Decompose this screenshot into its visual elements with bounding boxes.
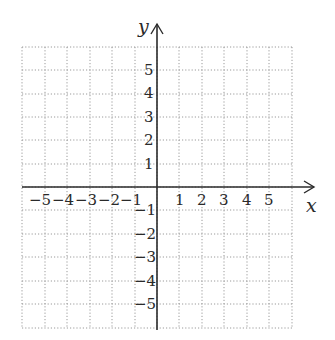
x-tick-5: 5: [264, 193, 274, 208]
y-tick-1: 1: [144, 157, 154, 172]
y-tick-neg3: −3: [134, 250, 156, 265]
x-tick-4: 4: [242, 193, 252, 208]
y-tick-neg1: −1: [134, 203, 156, 218]
x-tick-neg5: −5: [29, 193, 51, 208]
x-tick-3: 3: [219, 193, 229, 208]
coordinate-plane: y x −5 −4 −3 −2 −1 1 2 3 4 5 5 4 3 2 1 −…: [0, 0, 335, 340]
x-tick-1: 1: [175, 193, 185, 208]
x-axis-label: x: [306, 196, 317, 215]
x-tick-2: 2: [197, 193, 207, 208]
y-tick-3: 3: [144, 110, 154, 125]
y-axis-label: y: [138, 17, 149, 36]
x-tick-neg2: −2: [98, 193, 120, 208]
y-tick-neg2: −2: [134, 227, 156, 242]
y-tick-2: 2: [144, 133, 154, 148]
y-tick-5: 5: [144, 63, 154, 78]
x-tick-neg3: −3: [75, 193, 97, 208]
x-tick-neg4: −4: [52, 193, 74, 208]
grid-svg: [0, 0, 335, 340]
y-tick-4: 4: [144, 86, 154, 101]
y-tick-neg4: −4: [134, 274, 156, 289]
y-tick-neg5: −5: [134, 297, 156, 312]
